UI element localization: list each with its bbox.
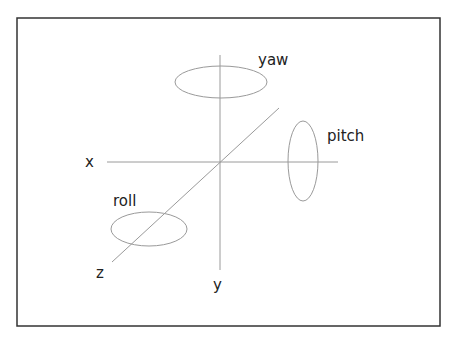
pitch-label: pitch <box>327 127 364 145</box>
yaw-label: yaw <box>258 51 288 69</box>
diagram-frame <box>17 18 440 326</box>
rotation-axes-diagram: yaw pitch roll x z y <box>0 0 455 342</box>
roll-label: roll <box>113 192 136 210</box>
x-axis-label: x <box>85 153 94 171</box>
y-axis-label: y <box>213 276 222 294</box>
z-axis-label: z <box>96 264 104 282</box>
